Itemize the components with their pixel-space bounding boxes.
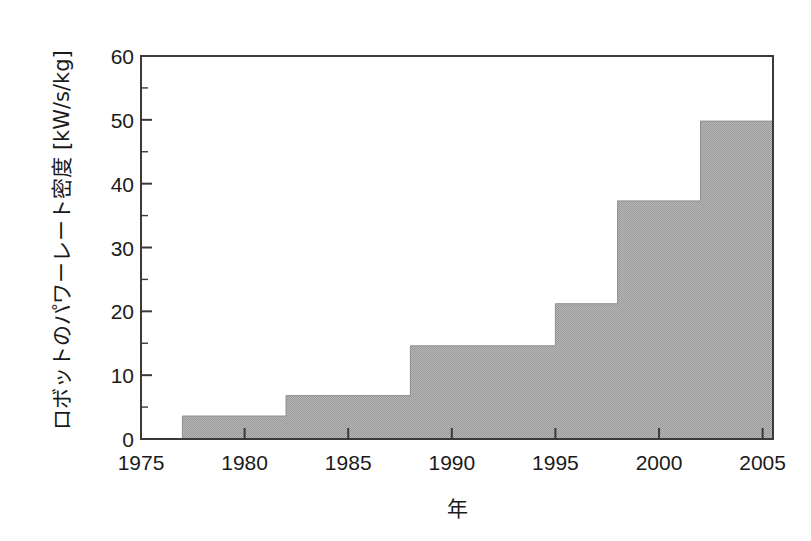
x-axis-tick-label: 1985: [303, 452, 393, 473]
x-axis-tick-label: 1995: [510, 452, 600, 473]
x-axis-tick-label: 1990: [407, 452, 497, 473]
y-axis-title: ロボットのパワーレート密度 [kW/s/kg]: [40, 40, 80, 440]
x-axis-tick-label: 1980: [200, 452, 290, 473]
chart-figure: 0102030405060 19751980198519901995200020…: [0, 0, 811, 541]
x-axis-tick-label: 2005: [718, 452, 808, 473]
x-axis-title: 年: [141, 492, 773, 522]
x-axis-tick-label: 2000: [614, 452, 704, 473]
x-axis-tick-label: 1975: [96, 452, 186, 473]
x-axis-tick-labels: 1975198019851990199520002005: [0, 0, 811, 541]
